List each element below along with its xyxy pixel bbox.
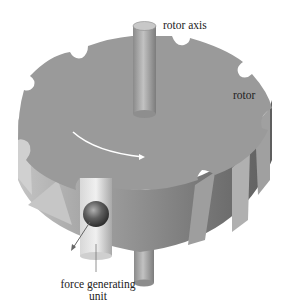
- force-generating-unit-label: force generating unit: [59, 278, 137, 302]
- force-label-line2: unit: [59, 290, 137, 302]
- rotor-axis-shaft: [133, 22, 156, 119]
- rotor-axis-label: rotor axis: [163, 19, 207, 31]
- rotor-label: rotor: [233, 89, 255, 101]
- force-label-line1: force generating: [59, 278, 137, 290]
- rotor-diagram: rotor axis rotor force generating unit: [0, 0, 288, 306]
